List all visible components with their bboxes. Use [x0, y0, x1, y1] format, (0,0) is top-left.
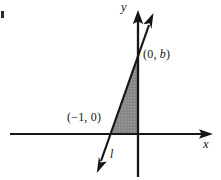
label-axis-y: y — [121, 1, 127, 14]
label-axis-x: x — [203, 138, 209, 151]
figure-container: (0, b) (−1, 0) y x l — [0, 0, 221, 180]
line-l — [101, 25, 149, 161]
label-y-intercept: (0, b) — [143, 48, 170, 60]
label-x-intercept: (−1, 0) — [67, 111, 101, 123]
label-line-l: l — [110, 148, 114, 160]
